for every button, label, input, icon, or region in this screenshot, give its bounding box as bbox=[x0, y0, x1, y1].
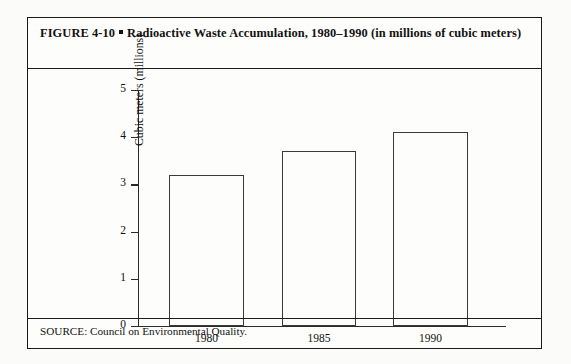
y-tick-3: 3 bbox=[131, 184, 139, 185]
y-tick-4: 4 bbox=[131, 137, 139, 138]
figure-title-band: FIGURE 4-10Radioactive Waste Accumulatio… bbox=[28, 18, 541, 69]
figure-source-band: SOURCE: Council on Environmental Quality… bbox=[28, 318, 541, 348]
y-tick-label-2: 2 bbox=[120, 224, 126, 236]
figure-page: FIGURE 4-10Radioactive Waste Accumulatio… bbox=[0, 0, 571, 364]
bar-1990 bbox=[393, 132, 468, 326]
bar-1980 bbox=[169, 175, 244, 326]
figure-number: FIGURE 4-10 bbox=[40, 26, 115, 40]
plot-area: Cubic meters (millions) 5 4 3 2 1 0 bbox=[28, 69, 541, 318]
figure-source: SOURCE: Council on Environmental Quality… bbox=[40, 325, 247, 337]
figure-title-text: Radioactive Waste Accumulation, 1980–199… bbox=[127, 26, 521, 40]
y-tick-label-5: 5 bbox=[120, 82, 126, 94]
y-tick-1: 1 bbox=[131, 279, 139, 280]
y-tick-5: 5 bbox=[131, 90, 139, 91]
y-tick-label-1: 1 bbox=[120, 271, 126, 283]
y-tick-label-3: 3 bbox=[120, 176, 126, 188]
square-bullet-icon bbox=[119, 30, 123, 34]
y-tick-2: 2 bbox=[131, 232, 139, 233]
figure-frame: FIGURE 4-10Radioactive Waste Accumulatio… bbox=[27, 17, 542, 349]
y-tick-label-4: 4 bbox=[120, 129, 126, 141]
bar-1985 bbox=[282, 151, 356, 326]
y-axis-line: Cubic meters (millions) bbox=[138, 90, 139, 326]
figure-title: FIGURE 4-10Radioactive Waste Accumulatio… bbox=[40, 25, 529, 42]
y-axis-title: Cubic meters (millions) bbox=[132, 0, 147, 146]
